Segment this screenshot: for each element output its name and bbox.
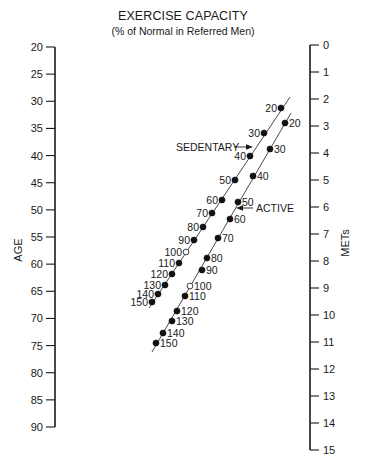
filled-marker (162, 282, 168, 288)
filled-marker (176, 260, 182, 266)
filled-marker (267, 146, 273, 152)
filled-marker (182, 293, 188, 299)
age-axis-label: AGE (12, 238, 24, 261)
mets-tick-label: 0 (323, 39, 329, 51)
percent-label: 30 (274, 143, 286, 155)
filled-marker (200, 224, 206, 230)
percent-label: 30 (248, 127, 260, 139)
filled-marker (250, 173, 256, 179)
percent-label: 80 (187, 221, 199, 233)
mets-tick-label: 10 (323, 309, 335, 321)
mets-tick-label: 3 (323, 120, 329, 132)
percent-label: 20 (289, 117, 301, 129)
mets-tick-label: 8 (323, 255, 329, 267)
mets-tick-label: 1 (323, 66, 329, 78)
mets-axis: 0123456789101112131415METs (310, 39, 351, 456)
filled-marker (191, 237, 197, 243)
arrow-right-icon (246, 144, 253, 149)
mets-tick-label: 7 (323, 228, 329, 240)
filled-marker (153, 340, 159, 346)
percent-lines: 2030405060708090100110120130140150203040… (130, 97, 300, 352)
age-tick-label: 45 (31, 177, 43, 189)
filled-marker (282, 120, 288, 126)
age-tick-label: 85 (31, 394, 43, 406)
age-tick-label: 90 (31, 421, 43, 433)
mets-tick-label: 5 (323, 174, 329, 186)
age-tick-label: 80 (31, 367, 43, 379)
mets-tick-label: 2 (323, 93, 329, 105)
filled-marker (149, 299, 155, 305)
filled-marker (235, 199, 241, 205)
mets-tick-label: 6 (323, 201, 329, 213)
age-tick-label: 55 (31, 231, 43, 243)
filled-marker (199, 267, 205, 273)
age-tick-label: 65 (31, 285, 43, 297)
filled-marker (169, 318, 175, 324)
percent-label: 70 (222, 232, 234, 244)
filled-marker (155, 291, 161, 297)
age-tick-label: 50 (31, 204, 43, 216)
percent-label: 110 (189, 290, 206, 302)
filled-marker (261, 130, 267, 136)
age-tick-label: 75 (31, 340, 43, 352)
filled-marker (209, 210, 215, 216)
age-axis: 202530354045505560657075808590AGE (12, 41, 55, 433)
mets-tick-label: 11 (323, 336, 334, 348)
mets-tick-label: 9 (323, 282, 329, 294)
mets-tick-label: 13 (323, 390, 335, 402)
open-marker (187, 283, 193, 289)
mets-tick-label: 14 (323, 417, 335, 429)
age-tick-label: 30 (31, 95, 43, 107)
percent-label: 60 (234, 213, 246, 225)
active-annotation: ACTIVE (256, 202, 294, 214)
mets-tick-label: 12 (323, 363, 335, 375)
percent-label: 150 (130, 296, 148, 308)
filled-marker (160, 330, 166, 336)
mets-axis-label: METs (339, 229, 351, 257)
percent-label: 50 (242, 196, 254, 208)
percent-label: 150 (160, 337, 178, 349)
percent-label: 70 (196, 207, 208, 219)
filled-marker (227, 216, 233, 222)
filled-marker (247, 153, 253, 159)
open-marker (183, 249, 189, 255)
age-tick-label: 25 (31, 68, 43, 80)
percent-label: 90 (178, 234, 190, 246)
percent-label: 80 (211, 252, 223, 264)
percent-label: 60 (206, 194, 218, 206)
percent-label: 40 (257, 170, 269, 182)
nomogram-plot: 202530354045505560657075808590AGE 012345… (0, 0, 366, 469)
age-tick-label: 40 (31, 150, 43, 162)
filled-marker (219, 197, 225, 203)
percent-label: 130 (176, 315, 194, 327)
mets-tick-label: 15 (323, 444, 335, 456)
filled-marker (169, 271, 175, 277)
filled-marker (278, 105, 284, 111)
filled-marker (215, 235, 221, 241)
age-tick-label: 20 (31, 41, 43, 53)
percent-label: 50 (219, 174, 231, 186)
percent-label: 90 (206, 264, 218, 276)
filled-marker (174, 308, 180, 314)
percent-label: 20 (265, 102, 277, 114)
mets-tick-label: 4 (323, 147, 329, 159)
age-tick-label: 60 (31, 258, 43, 270)
filled-marker (204, 255, 210, 261)
sedentary-annotation: SEDENTARY (176, 141, 239, 153)
age-tick-label: 35 (31, 122, 43, 134)
filled-marker (232, 177, 238, 183)
age-tick-label: 70 (31, 312, 43, 324)
